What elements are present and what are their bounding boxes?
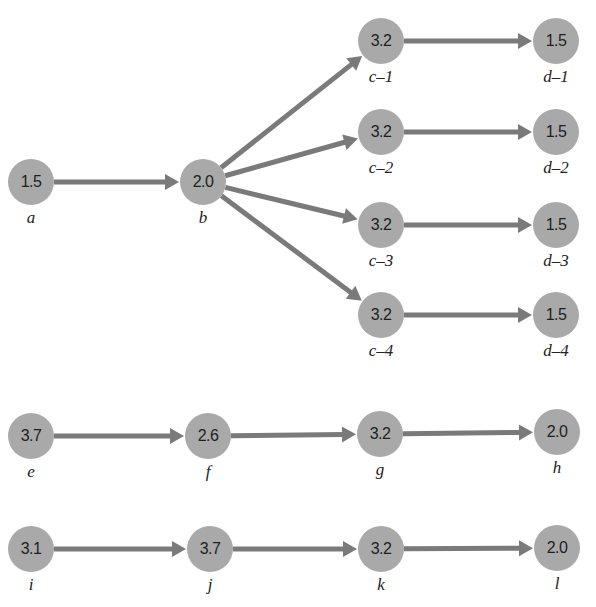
edge-arrow-c-2-to-d-2 (404, 124, 532, 140)
edge-line (231, 434, 344, 435)
node-label-a: a (27, 208, 36, 228)
edge-arrow-c-4-to-d-4 (404, 307, 532, 323)
arrowhead-icon (172, 541, 186, 557)
node-k: 3.2 (358, 526, 404, 572)
node-c-3: 3.2 (358, 202, 404, 248)
node-f: 2.6 (185, 413, 231, 459)
node-c-2: 3.2 (358, 109, 404, 155)
edge-arrow-b-to-c-3 (225, 187, 357, 223)
edge-line (403, 432, 521, 433)
node-value: 3.7 (200, 540, 221, 558)
edge-arrow-j-to-k (233, 541, 357, 557)
arrowhead-icon (518, 33, 532, 49)
node-d-1: 1.5 (533, 18, 579, 64)
node-value: 3.2 (371, 32, 392, 50)
node-value: 3.2 (371, 123, 392, 141)
node-value: 3.2 (371, 540, 392, 558)
node-label-i: i (29, 575, 34, 595)
node-j: 3.7 (187, 526, 233, 572)
node-value: 2.6 (198, 427, 219, 445)
edge-line (221, 63, 353, 167)
node-d-3: 1.5 (533, 202, 579, 248)
node-label-c-3: c–3 (369, 251, 394, 271)
arrowhead-icon (342, 426, 356, 442)
node-label-l: l (555, 574, 560, 594)
arrowhead-icon (165, 174, 179, 190)
node-c-1: 3.2 (358, 18, 404, 64)
edge-arrow-c-3-to-d-3 (404, 217, 532, 233)
node-d-2: 1.5 (533, 109, 579, 155)
node-label-j: j (208, 575, 213, 595)
edge-arrow-b-to-c-2 (225, 135, 358, 176)
node-label-c-1: c–1 (369, 67, 394, 87)
node-value: 2.0 (193, 173, 214, 191)
node-label-c-2: c–2 (369, 158, 394, 178)
arrowhead-icon (343, 541, 357, 557)
node-label-g: g (376, 460, 385, 480)
node-label-b: b (199, 208, 208, 228)
node-label-d-4: d–4 (543, 341, 569, 361)
arrowhead-icon (170, 428, 184, 444)
edge-arrow-b-to-c-4 (221, 196, 361, 301)
edge-arrow-i-to-j (54, 541, 186, 557)
node-value: 2.0 (547, 539, 568, 557)
edge-line (221, 196, 352, 294)
node-b: 2.0 (180, 159, 226, 205)
node-value: 1.5 (21, 173, 42, 191)
node-value: 1.5 (546, 216, 567, 234)
edge-arrow-a-to-b (54, 174, 179, 190)
node-value: 3.1 (21, 540, 42, 558)
edge-line (225, 142, 346, 176)
arrowhead-icon (518, 307, 532, 323)
edge-line (404, 548, 521, 549)
node-value: 3.2 (370, 425, 391, 443)
node-label-d-2: d–2 (543, 158, 569, 178)
node-label-d-3: d–3 (543, 251, 569, 271)
arrowhead-icon (518, 217, 532, 233)
node-e: 3.7 (8, 413, 54, 459)
edge-arrow-e-to-f (54, 428, 184, 444)
node-i: 3.1 (8, 526, 54, 572)
node-value: 1.5 (546, 32, 567, 50)
arrowhead-icon (519, 424, 533, 440)
arrowhead-icon (342, 208, 357, 224)
edge-layer (0, 0, 596, 607)
node-value: 3.2 (371, 216, 392, 234)
node-l: 2.0 (534, 525, 580, 571)
node-value: 3.2 (371, 306, 392, 324)
node-value: 1.5 (546, 123, 567, 141)
node-value: 1.5 (546, 306, 567, 324)
node-label-f: f (206, 462, 211, 482)
node-h: 2.0 (534, 409, 580, 455)
edge-arrow-g-to-h (403, 424, 533, 440)
node-g: 3.2 (357, 411, 403, 457)
arrowhead-icon (342, 135, 358, 150)
network-diagram: 1.5a2.0b3.2c–13.2c–23.2c–33.2c–41.5d–11.… (0, 0, 596, 607)
node-label-k: k (377, 575, 385, 595)
node-value: 3.7 (21, 427, 42, 445)
edge-arrow-b-to-c-1 (221, 56, 362, 168)
edge-arrow-k-to-l (404, 540, 533, 556)
node-label-d-1: d–1 (543, 67, 569, 87)
node-label-h: h (553, 458, 562, 478)
node-label-e: e (27, 462, 35, 482)
arrowhead-icon (518, 124, 532, 140)
edge-arrow-f-to-g (231, 426, 356, 442)
node-a: 1.5 (8, 159, 54, 205)
edge-arrow-c-1-to-d-1 (404, 33, 532, 49)
arrowhead-icon (519, 540, 533, 556)
node-value: 2.0 (547, 423, 568, 441)
node-c-4: 3.2 (358, 292, 404, 338)
node-label-c-4: c–4 (369, 341, 394, 361)
node-d-4: 1.5 (533, 292, 579, 338)
